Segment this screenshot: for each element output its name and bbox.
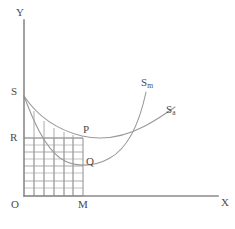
start-point-s-label: S xyxy=(11,86,17,97)
marginal-ordinate-lines xyxy=(34,111,73,196)
marginal-cost-curve-label: Sm xyxy=(141,77,153,88)
origin-label: O xyxy=(11,199,19,210)
point-p-label: P xyxy=(83,124,89,135)
output-m-label: M xyxy=(78,199,88,210)
cost-curve-figure: Y X O M S R P Q Sm Sa xyxy=(0,0,235,229)
figure-canvas xyxy=(0,0,235,229)
point-q-label: Q xyxy=(86,156,94,167)
average-cost-r-label: R xyxy=(10,132,17,143)
y-axis-label: Y xyxy=(16,7,24,18)
average-cost-curve-label-sub: a xyxy=(172,108,175,117)
total-cost-rectangle-border xyxy=(24,138,83,196)
average-cost-curve-label: Sa xyxy=(166,104,175,115)
average-cost-curve xyxy=(24,96,175,138)
marginal-cost-curve-label-sub: m xyxy=(147,81,153,90)
x-axis-label: X xyxy=(221,197,229,208)
total-cost-rectangle-grid xyxy=(24,138,83,196)
